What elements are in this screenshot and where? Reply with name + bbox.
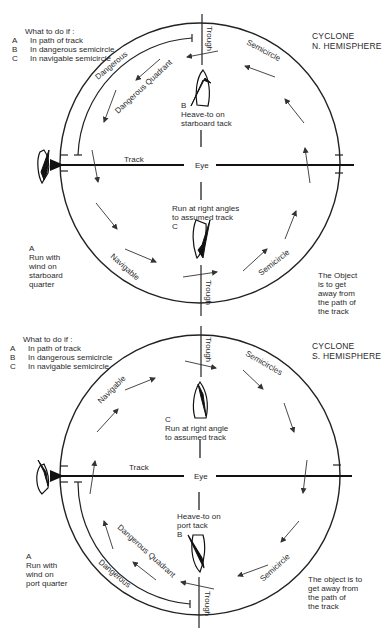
north-track-label: Track (124, 155, 144, 164)
south-label-semicircle-bottom: Semicircle (258, 552, 292, 584)
north-action-a: A Run with wind on starboard quarter (29, 244, 63, 289)
south-label-semicircles-top: Semicircles (244, 349, 284, 377)
south-title: CYCLONE S. HEMISPHERE (312, 341, 381, 361)
north-action-c: Run at right angles to assumed track C (172, 204, 239, 231)
south-label-trough-bottom: Trough (203, 591, 212, 616)
south-title-line2: S. HEMISPHERE (312, 351, 381, 361)
north-label-semicircle-top: Semicircle (245, 38, 282, 64)
cyclone-diagrams: Dangerous Dangerous Quadrant Semicircle … (0, 0, 389, 637)
south-track-label: Track (129, 463, 149, 472)
north-legend-item: CIn navigable semicircle (12, 54, 114, 63)
north-label-trough-bottom: Trough (204, 280, 213, 305)
north-legend-item: AIn path of track (12, 36, 114, 45)
south-legend-item: BIn dangerous semicircle (10, 353, 112, 362)
north-action-b: B Heave-to on starboard tack (181, 101, 232, 128)
south-label-dangerous: Dangerous (97, 558, 133, 590)
north-title-line1: CYCLONE (312, 31, 382, 41)
north-legend: What to do if : AIn path of track BIn da… (12, 27, 114, 63)
north-legend-heading: What to do if : (12, 27, 114, 36)
south-label-dangerous-quadrant: Dangerous Quadrant (116, 523, 178, 580)
south-boat-c-icon (193, 382, 207, 418)
north-title-line2: N. HEMISPHERE (312, 41, 382, 51)
south-action-b: Heave-to on port tack B (177, 512, 221, 539)
south-boat-b-icon (188, 535, 205, 572)
south-action-a: A Run with wind on port quarter (26, 552, 67, 588)
south-legend-heading: What to do if : (10, 335, 112, 344)
south-title-line1: CYCLONE (312, 341, 381, 351)
north-label-navigable: Navigable (109, 252, 142, 283)
south-legend-item: CIn navigable semicircle (10, 362, 112, 371)
south-legend-item: AIn path of track (10, 344, 112, 353)
north-eye-label: Eye (195, 161, 209, 170)
south-label-trough-top: Trough (204, 337, 213, 362)
south-legend: What to do if : AIn path of track BIn da… (10, 335, 112, 371)
south-eye-label: Eye (194, 472, 208, 481)
south-boat-a-icon (37, 460, 49, 494)
north-title: CYCLONE N. HEMISPHERE (312, 31, 382, 51)
north-legend-item: BIn dangerous semicircle (12, 45, 114, 54)
south-action-c: C Run at right angle to assumed track (165, 415, 228, 442)
north-boat-a-icon (38, 150, 49, 183)
south-label-navigable: Navigable (96, 374, 128, 406)
north-label-trough-top: Trough (205, 26, 214, 51)
south-note: The object is to get away from the path … (308, 575, 362, 611)
north-note: The Object is to get away from the path … (318, 271, 357, 316)
